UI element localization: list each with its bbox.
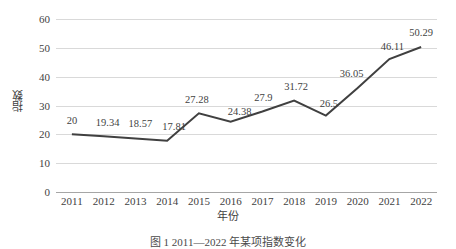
x-tick-label: 2019 (315, 195, 337, 208)
y-tick-label: 50 (4, 42, 50, 53)
x-axis-title: 年份 (0, 210, 456, 223)
y-tick-label: 20 (4, 129, 50, 140)
x-tick-label: 2013 (124, 195, 146, 208)
y-tick-label: 60 (4, 14, 50, 25)
data-point-label: 17.81 (162, 121, 186, 132)
y-tick-label: 0 (4, 187, 50, 198)
x-tick-label: 2021 (378, 195, 400, 208)
data-point-label: 46.11 (381, 41, 404, 52)
y-axis-tick-labels: 0102030405060 (0, 19, 50, 192)
x-tick-label: 2016 (220, 195, 242, 208)
y-tick-label: 40 (4, 71, 50, 82)
x-tick-label: 2015 (188, 195, 210, 208)
data-point-label: 27.9 (254, 92, 272, 103)
x-tick-label: 2012 (93, 195, 115, 208)
x-tick-label: 2014 (156, 195, 178, 208)
data-point-label: 26.5 (320, 98, 338, 109)
y-tick-label: 30 (4, 100, 50, 111)
data-point-label: 20 (67, 115, 78, 126)
data-point-label: 36.05 (340, 68, 364, 79)
data-point-label: 50.29 (409, 27, 433, 38)
data-point-label: 27.28 (185, 94, 209, 105)
plot-area: 2019.3418.5717.8127.2824.3827.931.7226.5… (56, 19, 437, 192)
x-tick-label: 2018 (283, 195, 305, 208)
x-axis-tick-labels: 2011201220132014201520162017201820192020… (56, 195, 437, 209)
x-tick-label: 2022 (410, 195, 432, 208)
figure-caption: 图 1 2011—2022 年某项指数变化 (0, 236, 456, 249)
x-tick-label: 2020 (347, 195, 369, 208)
data-point-label: 24.38 (228, 106, 252, 117)
x-tick-label: 2011 (61, 195, 83, 208)
data-point-label: 31.72 (284, 81, 308, 92)
series-polyline (72, 47, 421, 141)
y-tick-label: 10 (4, 158, 50, 169)
x-axis-baseline (56, 192, 437, 193)
data-point-label: 19.34 (96, 117, 120, 128)
data-point-label: 18.57 (129, 118, 153, 129)
x-tick-label: 2017 (251, 195, 273, 208)
